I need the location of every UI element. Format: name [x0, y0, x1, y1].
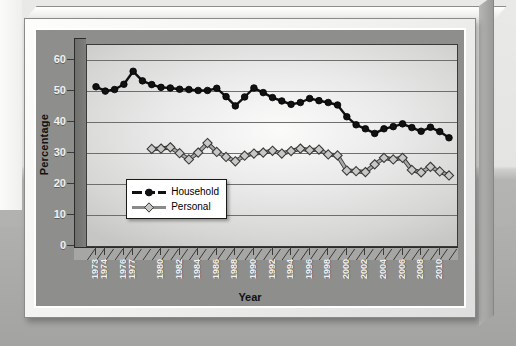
y-tick-label: 20 — [44, 177, 66, 189]
data-point-marker — [158, 84, 165, 91]
x-tick-mark — [216, 247, 217, 255]
x-tick-label: 1977 — [127, 259, 137, 279]
data-point-marker — [213, 85, 220, 92]
y-tick-label: 60 — [44, 53, 66, 65]
x-tick-label: 1986 — [211, 259, 221, 279]
y-tick-mark — [67, 152, 74, 153]
x-tick-label: 1982 — [174, 259, 184, 279]
data-point-marker — [297, 99, 304, 106]
data-point-marker — [186, 86, 193, 93]
x-tick-mark — [290, 247, 291, 255]
y-tick-mark — [67, 121, 74, 122]
x-tick-mark — [383, 247, 384, 255]
data-point-marker — [389, 155, 398, 164]
data-point-marker — [409, 124, 416, 131]
y-tick-mark — [67, 59, 74, 60]
data-point-marker — [111, 86, 118, 93]
x-tick-label: 2010 — [434, 259, 444, 279]
y-tick-mark — [67, 214, 74, 215]
data-point-marker — [288, 101, 295, 108]
data-point-marker — [277, 149, 286, 158]
x-tick-label: 1980 — [155, 259, 165, 279]
x-tick-mark — [234, 247, 235, 255]
data-point-marker — [269, 94, 276, 101]
legend-label-personal: Personal — [171, 201, 210, 212]
x-tick-mark — [439, 247, 440, 255]
x-tick-label: 1996 — [304, 259, 314, 279]
data-point-marker — [204, 87, 211, 94]
data-point-marker — [148, 81, 155, 88]
chart-area: Percentage 0102030405060 — [36, 30, 464, 306]
plot-wrapper — [74, 38, 458, 260]
chart-canvas: Percentage 0102030405060 — [34, 28, 466, 308]
data-point-marker — [390, 123, 397, 130]
data-point-marker — [176, 86, 183, 93]
x-tick-mark — [104, 247, 105, 255]
data-point-marker — [325, 99, 332, 106]
data-point-marker — [296, 144, 305, 153]
data-point-marker — [399, 121, 406, 128]
frame-bevel-right — [479, 0, 494, 326]
data-point-marker — [278, 98, 285, 105]
framed-chart-plaque: Percentage 0102030405060 — [24, 6, 494, 326]
data-point-marker — [102, 88, 109, 95]
data-point-marker — [130, 68, 137, 75]
x-tick-label: 2004 — [378, 259, 388, 279]
data-point-marker — [427, 124, 434, 131]
x-tick-label: 2008 — [415, 259, 425, 279]
y-tick-label: 40 — [44, 115, 66, 127]
data-point-marker — [352, 167, 361, 176]
y-tick-mark — [67, 90, 74, 91]
data-point-marker — [223, 93, 230, 100]
x-tick-mark — [197, 247, 198, 255]
legend-item-personal: Personal — [132, 199, 219, 214]
x-tick-mark — [179, 247, 180, 255]
data-point-marker — [316, 97, 323, 104]
x-tick-label: 1984 — [192, 259, 202, 279]
x-tick-label: 1988 — [229, 259, 239, 279]
chart-legend: Household Personal — [126, 179, 227, 219]
data-point-marker — [260, 89, 267, 96]
y-tick-mark — [67, 183, 74, 184]
data-point-marker — [139, 78, 146, 85]
x-tick-mark — [420, 247, 421, 255]
data-point-marker — [195, 87, 202, 94]
data-point-marker — [249, 149, 258, 158]
data-point-marker — [344, 113, 351, 120]
x-tick-mark — [95, 247, 96, 255]
data-point-marker — [286, 146, 295, 155]
y-tick-mark — [67, 245, 74, 246]
y-tick-label: 30 — [44, 146, 66, 158]
data-point-marker — [418, 128, 425, 135]
x-tick-label: 1994 — [285, 259, 295, 279]
data-point-marker — [241, 94, 248, 101]
chart-frame: Percentage 0102030405060 — [24, 18, 476, 318]
data-point-marker — [93, 83, 100, 90]
x-tick-mark — [253, 247, 254, 255]
x-tick-mark — [327, 247, 328, 255]
x-tick-mark — [160, 247, 161, 255]
plot-depth-wall — [74, 38, 86, 252]
x-tick-mark — [364, 247, 365, 255]
backdrop-wall — [0, 0, 22, 210]
data-point-marker — [436, 128, 443, 135]
x-tick-mark — [402, 247, 403, 255]
y-tick-label: 0 — [44, 239, 66, 251]
x-tick-mark — [346, 247, 347, 255]
data-point-marker — [232, 103, 239, 110]
x-tick-mark — [309, 247, 310, 255]
legend-key-diamond-icon — [132, 200, 166, 213]
data-point-marker — [305, 146, 314, 155]
x-tick-mark — [123, 247, 124, 255]
x-tick-label: 1998 — [322, 259, 332, 279]
x-tick-label: 2000 — [341, 259, 351, 279]
legend-key-circle-icon — [132, 185, 166, 198]
x-tick-label: 2006 — [397, 259, 407, 279]
data-point-marker — [156, 144, 165, 153]
x-tick-label: 2002 — [359, 259, 369, 279]
data-point-marker — [251, 85, 258, 92]
x-tick-mark — [272, 247, 273, 255]
data-point-marker — [334, 102, 341, 109]
data-point-marker — [446, 134, 453, 141]
x-tick-mark — [132, 247, 133, 255]
